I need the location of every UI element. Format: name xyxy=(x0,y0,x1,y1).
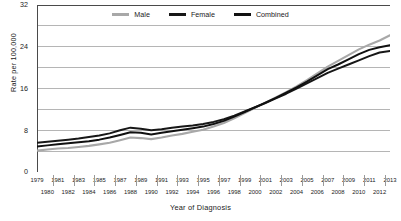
legend-label-male: Male xyxy=(134,10,150,19)
y-tick-16: 16 xyxy=(4,85,28,92)
legend-item-female: Female xyxy=(169,10,215,19)
x-label-separator xyxy=(157,175,158,186)
x-label-separator xyxy=(302,175,303,186)
x-axis-label: Year of Diagnosis xyxy=(0,203,401,212)
x-label-separator xyxy=(53,175,54,186)
y-axis-label: Rate per 100,000 xyxy=(9,8,18,118)
x-label-separator xyxy=(323,175,324,186)
legend-item-male: Male xyxy=(112,10,150,19)
legend-label-female: Female xyxy=(191,10,215,19)
y-tick-0: 0 xyxy=(4,168,28,175)
x-label-separator xyxy=(343,175,344,186)
x-label-separator xyxy=(115,175,116,186)
x-label-separator xyxy=(136,175,137,186)
x-tick-2013: 2013 xyxy=(378,178,401,184)
x-label-separator xyxy=(177,175,178,186)
legend-swatch-combined xyxy=(234,13,251,16)
legend-swatch-female xyxy=(169,13,186,16)
plot-area xyxy=(37,5,390,172)
chart-legend: Male Female Combined xyxy=(0,10,401,19)
legend-swatch-male xyxy=(112,13,129,16)
series-line-male xyxy=(37,35,390,150)
x-label-separator xyxy=(364,175,365,186)
y-tick-32: 32 xyxy=(4,1,28,8)
x-label-separator xyxy=(94,175,95,186)
x-label-separator xyxy=(198,175,199,186)
plot-svg xyxy=(37,5,390,172)
x-label-separator xyxy=(240,175,241,186)
x-label-separator xyxy=(260,175,261,186)
legend-label-combined: Combined xyxy=(256,10,289,19)
x-label-separator xyxy=(74,175,75,186)
y-tick-24: 24 xyxy=(4,43,28,50)
legend-item-combined: Combined xyxy=(234,10,289,19)
y-tick-8: 8 xyxy=(4,127,28,134)
x-label-separator xyxy=(385,175,386,186)
x-tick-2012: 2012 xyxy=(368,190,392,196)
line-chart: Rate per 100,000 08162432 19791981198319… xyxy=(0,0,401,221)
x-label-separator xyxy=(281,175,282,186)
x-label-separator xyxy=(219,175,220,186)
